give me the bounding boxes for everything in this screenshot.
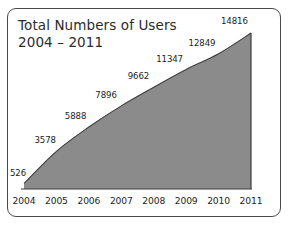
data-point-label-2009: 11347 (156, 54, 183, 64)
data-point-label-2007: 7896 (95, 90, 116, 100)
x-tick-2004: 2004 (7, 195, 41, 206)
data-point-label-2010: 12849 (189, 38, 216, 48)
data-point-label-2006: 5888 (65, 111, 86, 121)
x-tick-2009: 2009 (169, 195, 203, 206)
x-tick-2006: 2006 (72, 195, 106, 206)
data-point-label-2004: 526 (10, 168, 26, 178)
x-tick-2007: 2007 (104, 195, 138, 206)
data-point-label-2005: 3578 (34, 135, 55, 145)
chart-title: Total Numbers of Users (18, 17, 177, 34)
chart-subtitle: 2004 – 2011 (18, 34, 177, 51)
x-tick-2008: 2008 (137, 195, 171, 206)
chart-title-block: Total Numbers of Users 2004 – 2011 (18, 17, 177, 52)
data-point-label-2008: 9662 (128, 71, 149, 81)
x-tick-2011: 2011 (234, 195, 268, 206)
area-series-fill (24, 33, 251, 189)
x-tick-2010: 2010 (202, 195, 236, 206)
x-tick-2005: 2005 (39, 195, 73, 206)
data-point-label-2011: 14816 (221, 16, 248, 26)
chart-card: Total Numbers of Users 2004 – 2011 52635… (7, 8, 281, 217)
